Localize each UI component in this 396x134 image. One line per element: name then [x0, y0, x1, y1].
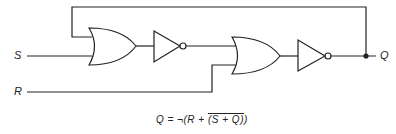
not-gate-2	[298, 40, 325, 71]
junction-dot	[363, 53, 368, 58]
not-gate-1-bubble	[180, 43, 186, 49]
or-gate-1	[89, 28, 136, 65]
not-gate-1	[154, 31, 180, 62]
q-output-label: Q	[380, 49, 389, 61]
formula-lhs: Q = ¬(R +	[156, 114, 208, 125]
formula: Q = ¬(R + (S + Q))	[156, 114, 248, 125]
not-gate-2-bubble	[325, 53, 331, 59]
r-label: R	[14, 85, 22, 97]
or-gate-2	[232, 37, 280, 74]
r-input-wire	[27, 65, 236, 92]
s-label: S	[14, 49, 21, 61]
formula-overline-term: (S + Q)	[208, 114, 244, 125]
formula-rhs: )	[244, 114, 248, 125]
